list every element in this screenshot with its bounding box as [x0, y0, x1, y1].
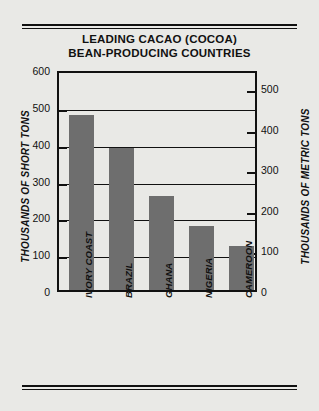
- chart-title: LEADING CACAO (COCOA) BEAN-PRODUCING COU…: [0, 33, 319, 60]
- y-axis-right-tick-label: 500: [261, 84, 279, 94]
- y-axis-right-tick-label: 0: [261, 287, 267, 297]
- y-axis-right-title: THOUSANDS OF METRIC TONS: [300, 108, 311, 264]
- x-axis-category-label: GHANA: [163, 263, 174, 298]
- chart-title-line-1: LEADING CACAO (COCOA): [0, 33, 319, 47]
- y-axis-left-tick: [59, 110, 67, 112]
- x-axis-category-label: BRAZIL: [123, 263, 134, 298]
- y-axis-left-tick-label: 400: [20, 140, 50, 150]
- top-decorative-rule: [22, 24, 297, 29]
- chart-title-line-2: BEAN-PRODUCING COUNTRIES: [0, 47, 319, 61]
- y-axis-right-tick-label: 200: [261, 206, 279, 216]
- y-axis-right-tick: [247, 132, 255, 134]
- y-axis-left-tick: [59, 184, 67, 186]
- bottom-decorative-rule: [22, 385, 297, 390]
- y-axis-right-tick-label: 300: [261, 165, 279, 175]
- y-axis-left-tick-label: 300: [20, 177, 50, 187]
- y-axis-right-tick: [247, 91, 255, 93]
- y-axis-left-tick-label: 600: [20, 66, 50, 76]
- y-axis-left-tick-label: 0: [20, 287, 50, 297]
- y-axis-left-tick-label: 100: [20, 250, 50, 260]
- y-axis-left-title: THOUSANDS OF SHORT TONS: [20, 110, 31, 263]
- y-axis-right-tick-label: 400: [261, 125, 279, 135]
- x-axis-category-label: IVORY COAST: [83, 232, 94, 298]
- y-axis-right-tick: [247, 213, 255, 215]
- x-axis-category-label: NIGERIA: [203, 258, 214, 298]
- y-axis-left-tick: [59, 257, 67, 259]
- y-axis-right-tick-label: 100: [261, 246, 279, 256]
- y-axis-left-tick-label: 500: [20, 103, 50, 113]
- y-axis-left-tick-label: 200: [20, 213, 50, 223]
- y-axis-right-tick: [247, 172, 255, 174]
- y-axis-left-tick: [59, 147, 67, 149]
- y-axis-left-tick: [59, 220, 67, 222]
- gridline: [59, 110, 255, 111]
- x-axis-category-label: CAMEROON: [243, 241, 254, 298]
